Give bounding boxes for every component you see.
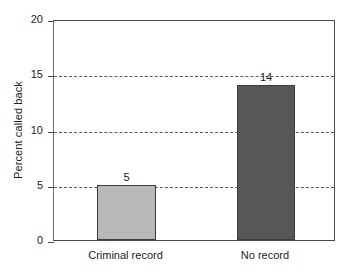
y-tick-label-15: 15 (0, 68, 43, 80)
x-axis-label-criminal-record: Criminal record (66, 249, 185, 261)
bar-value-label-criminal-record: 5 (97, 171, 156, 183)
y-tick-mark-20 (48, 21, 54, 22)
y-tick-mark-15 (48, 76, 54, 77)
plot-area: 5 14 (53, 20, 335, 241)
bar-chart-figure: Percent called back 0 5 10 15 20 5 14 Cr… (0, 0, 349, 276)
y-tick-mark-5 (48, 187, 54, 188)
y-tick-label-5: 5 (0, 179, 43, 191)
y-tick-mark-0 (48, 242, 54, 243)
y-tick-label-20: 20 (0, 13, 43, 25)
bar-criminal-record[interactable] (97, 185, 156, 240)
y-tick-label-10: 10 (0, 124, 43, 136)
y-tick-mark-10 (48, 132, 54, 133)
bar-no-record[interactable] (237, 85, 295, 240)
y-tick-label-0: 0 (0, 234, 43, 246)
x-axis-label-no-record: No record (206, 249, 324, 261)
bar-value-label-no-record: 14 (237, 71, 295, 83)
